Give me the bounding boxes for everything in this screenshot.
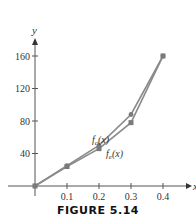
svg-text:80: 80 xyxy=(20,116,30,127)
series-fe xyxy=(33,54,166,189)
svg-text:0.1: 0.1 xyxy=(61,191,74,202)
y-axis-label: y xyxy=(31,24,37,36)
y-axis-arrow-icon xyxy=(32,38,38,45)
svg-text:0.4: 0.4 xyxy=(157,191,170,202)
chart: y x 0.10.20.30.4 4080120160 fc(x) fe(x) xyxy=(0,0,196,215)
svg-text:0.3: 0.3 xyxy=(125,191,138,202)
svg-text:160: 160 xyxy=(15,51,30,62)
fe-label: fe(x) xyxy=(106,148,124,161)
x-axis-label: x xyxy=(192,180,196,192)
series-fc xyxy=(33,54,166,189)
svg-text:0.2: 0.2 xyxy=(93,191,106,202)
x-axis-arrow-icon xyxy=(186,183,192,189)
figure-caption: FIGURE 5.14 xyxy=(0,204,196,215)
svg-text:40: 40 xyxy=(20,148,30,159)
svg-text:120: 120 xyxy=(15,83,30,94)
